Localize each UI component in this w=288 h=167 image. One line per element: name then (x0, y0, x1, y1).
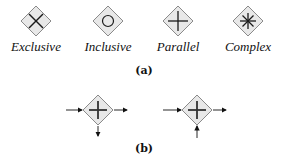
complex-gateway: Complex (225, 6, 271, 54)
gateway-diagram: Exclusive Inclusive Parallel Complex (a) (0, 0, 288, 167)
inclusive-label: Inclusive (84, 39, 132, 54)
exclusive-gateway: Exclusive (10, 6, 61, 54)
parallel-join-gateway (163, 95, 226, 138)
inclusive-gateway: Inclusive (84, 6, 132, 54)
caption-a: (a) (135, 64, 153, 77)
parallel-split-gateway (66, 95, 127, 136)
caption-b: (b) (135, 142, 153, 155)
parallel-label: Parallel (156, 39, 200, 54)
parallel-gateway: Parallel (156, 6, 200, 54)
exclusive-label: Exclusive (10, 39, 61, 54)
complex-label: Complex (225, 39, 271, 54)
